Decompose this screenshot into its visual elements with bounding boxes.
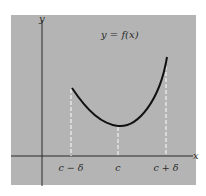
- tick-label-c-minus-delta: c − δ: [58, 162, 83, 173]
- diagram-panel: [11, 15, 196, 185]
- function-diagram: y x y = f(x) c − δ c c + δ: [0, 0, 206, 196]
- tick-label-c: c: [115, 162, 121, 173]
- y-axis-label: y: [38, 13, 45, 24]
- function-label: y = f(x): [100, 29, 139, 40]
- tick-label-c-plus-delta: c + δ: [153, 162, 178, 173]
- x-axis-label: x: [193, 150, 199, 161]
